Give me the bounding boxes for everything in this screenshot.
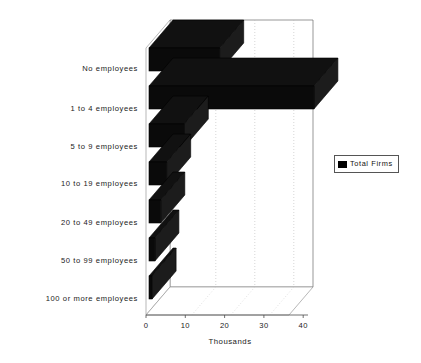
chart-legend[interactable]: Total Firms (334, 155, 399, 173)
bar-100-or-more-front (149, 276, 152, 299)
bar-50-to-99-front (149, 238, 155, 261)
x-tick-label-40: 40 (291, 322, 315, 330)
x-tick-label-10: 10 (173, 322, 197, 330)
chart-canvas: No employees 1 to 4 employees 5 to 9 emp… (0, 0, 421, 363)
plot-area (0, 0, 421, 363)
x-tick-label-30: 30 (252, 322, 276, 330)
x-tick-label-20: 20 (213, 322, 237, 330)
x-axis-title: Thousands (140, 338, 320, 346)
bar-1-to-4-top (149, 58, 338, 86)
bar-10-to-19-front (149, 162, 167, 185)
floor (146, 287, 313, 315)
legend-label-total-firms: Total Firms (350, 160, 393, 167)
bar-20-to-49-front (149, 200, 161, 223)
x-tick-label-0: 0 (134, 322, 158, 330)
legend-swatch-total-firms (338, 161, 347, 168)
x-axis-ticks (146, 315, 303, 318)
